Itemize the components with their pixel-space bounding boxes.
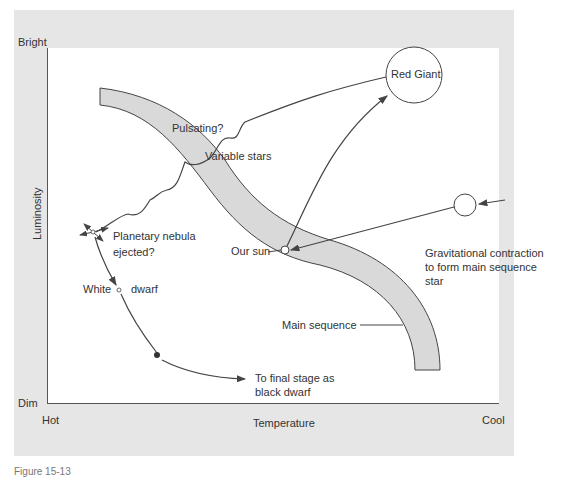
dwarf-label: dwarf <box>131 283 158 296</box>
gravitational-label-2: to form main sequence <box>425 261 537 274</box>
white-label: White <box>83 283 111 296</box>
x-axis-left-label: Hot <box>42 414 59 426</box>
white-dwarf-dot <box>117 288 121 292</box>
pulsating-label: Pulsating? <box>172 122 223 135</box>
y-axis-title: Luminosity <box>31 187 43 240</box>
x-axis-right-label: Cool <box>482 414 505 426</box>
planetary-nebula-label-2: ejected? <box>113 246 155 259</box>
black-dwarf-dot <box>154 352 160 358</box>
gravitational-label-1: Gravitational contraction <box>425 247 544 260</box>
main-sequence-band <box>100 88 440 370</box>
gravitational-label-3: star <box>425 275 443 288</box>
figure-caption: Figure 15-13 <box>14 466 71 477</box>
x-axis-title: Temperature <box>253 417 315 429</box>
black-dwarf-label-1: To final stage as <box>255 372 335 385</box>
black-dwarf-label-2: black dwarf <box>255 386 311 399</box>
red-giant-label: Red Giant <box>391 68 441 81</box>
y-axis-bottom-label: Dim <box>18 397 38 409</box>
sun-circle <box>281 246 289 254</box>
planetary-nebula-label-1: Planetary nebula <box>113 230 196 243</box>
main-sequence-label: Main sequence <box>282 319 357 332</box>
variable-stars-label: Variable stars <box>205 150 271 163</box>
our-sun-label: Our sun <box>231 245 270 258</box>
y-axis-top-label: Bright <box>18 36 47 48</box>
protostar-circle <box>454 194 476 216</box>
